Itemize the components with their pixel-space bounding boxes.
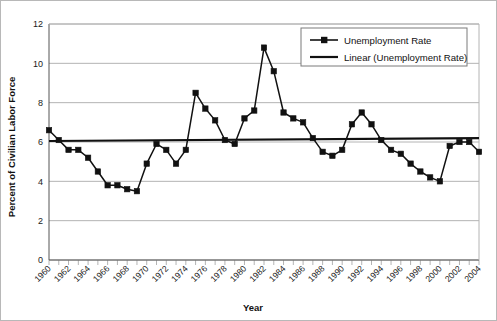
legend-item-label: Linear (Unemployment Rate) — [344, 52, 467, 63]
x-tick-label: 1978 — [208, 263, 229, 284]
data-point-marker — [379, 137, 384, 142]
data-point-marker — [193, 90, 198, 95]
data-series-unemployment-rate — [46, 45, 481, 194]
x-tick-label: 1966 — [91, 263, 112, 284]
y-tick-label: 12 — [33, 19, 43, 29]
data-point-marker — [124, 187, 129, 192]
data-point-marker — [408, 161, 413, 166]
y-axis-ticks: 024681012 — [33, 19, 43, 265]
x-tick-label: 2004 — [462, 263, 483, 284]
x-tick-label: 1974 — [169, 263, 190, 284]
data-point-marker — [271, 69, 276, 74]
x-tick-label: 1972 — [150, 263, 171, 284]
x-tick-label: 1970 — [130, 263, 151, 284]
x-tick-label: 1962 — [52, 263, 73, 284]
linear-trendline — [49, 138, 479, 141]
data-point-marker — [203, 106, 208, 111]
x-tick-label: 1998 — [404, 263, 425, 284]
data-point-marker — [85, 155, 90, 160]
y-axis-title: Percent of Civilian Labor Force — [6, 77, 17, 217]
data-point-marker — [252, 108, 257, 113]
data-point-marker — [144, 161, 149, 166]
data-point-marker — [320, 149, 325, 154]
data-point-marker — [447, 143, 452, 148]
x-tick-label: 1996 — [384, 263, 405, 284]
data-point-marker — [212, 118, 217, 123]
data-point-marker — [467, 139, 472, 144]
x-tick-label: 2002 — [443, 263, 464, 284]
data-point-marker — [95, 169, 100, 174]
data-point-marker — [105, 183, 110, 188]
y-tick-label: 6 — [38, 137, 43, 147]
y-tick-label: 10 — [33, 59, 43, 69]
y-tick-label: 0 — [38, 255, 43, 265]
data-point-marker — [339, 147, 344, 152]
x-tick-label: 1960 — [32, 263, 53, 284]
data-point-marker — [418, 169, 423, 174]
data-point-marker — [134, 188, 139, 193]
data-point-marker — [369, 122, 374, 127]
data-point-marker — [222, 137, 227, 142]
y-tick-label: 2 — [38, 216, 43, 226]
data-point-marker — [76, 147, 81, 152]
data-point-marker — [300, 120, 305, 125]
data-point-marker — [388, 147, 393, 152]
data-point-marker — [427, 175, 432, 180]
x-tick-label: 1984 — [267, 263, 288, 284]
x-tick-label: 2000 — [423, 263, 444, 284]
data-point-marker — [476, 149, 481, 154]
data-point-marker — [164, 147, 169, 152]
x-tick-label: 1976 — [189, 263, 210, 284]
data-point-marker — [398, 151, 403, 156]
legend-item-label: Unemployment Rate — [344, 35, 431, 46]
data-point-marker — [232, 141, 237, 146]
x-tick-label: 1990 — [326, 263, 347, 284]
x-axis-title: Year — [243, 302, 263, 313]
data-point-marker — [310, 135, 315, 140]
data-point-marker — [56, 137, 61, 142]
series-line-unemployment-rate — [49, 48, 479, 192]
data-point-marker — [183, 147, 188, 152]
unemployment-rate-line-chart: 024681012 196019621964196619681970197219… — [1, 1, 497, 321]
data-point-marker — [330, 153, 335, 158]
data-point-marker — [261, 45, 266, 50]
chart-container: 024681012 196019621964196619681970197219… — [0, 0, 497, 321]
data-point-marker — [359, 110, 364, 115]
y-tick-label: 4 — [38, 177, 43, 187]
data-point-marker — [291, 116, 296, 121]
data-point-marker — [281, 110, 286, 115]
data-point-marker — [437, 179, 442, 184]
data-point-marker — [173, 161, 178, 166]
data-point-marker — [349, 122, 354, 127]
legend-marker-sample — [321, 37, 327, 43]
data-point-marker — [154, 141, 159, 146]
data-point-marker — [46, 128, 51, 133]
data-point-marker — [457, 139, 462, 144]
trendline-series — [49, 138, 479, 141]
x-tick-label: 1986 — [286, 263, 307, 284]
x-tick-label: 1968 — [111, 263, 132, 284]
data-point-marker — [115, 183, 120, 188]
x-tick-label: 1988 — [306, 263, 327, 284]
chart-legend: Unemployment RateLinear (Unemployment Ra… — [301, 28, 467, 66]
x-tick-label: 1964 — [71, 263, 92, 284]
x-tick-label: 1994 — [365, 263, 386, 284]
x-tick-label: 1992 — [345, 263, 366, 284]
x-tick-label: 1980 — [228, 263, 249, 284]
data-point-marker — [242, 116, 247, 121]
data-point-marker — [66, 147, 71, 152]
x-axis-ticks: 1960196219641966196819701972197419761978… — [32, 260, 483, 284]
x-tick-label: 1982 — [247, 263, 268, 284]
y-tick-label: 8 — [38, 98, 43, 108]
